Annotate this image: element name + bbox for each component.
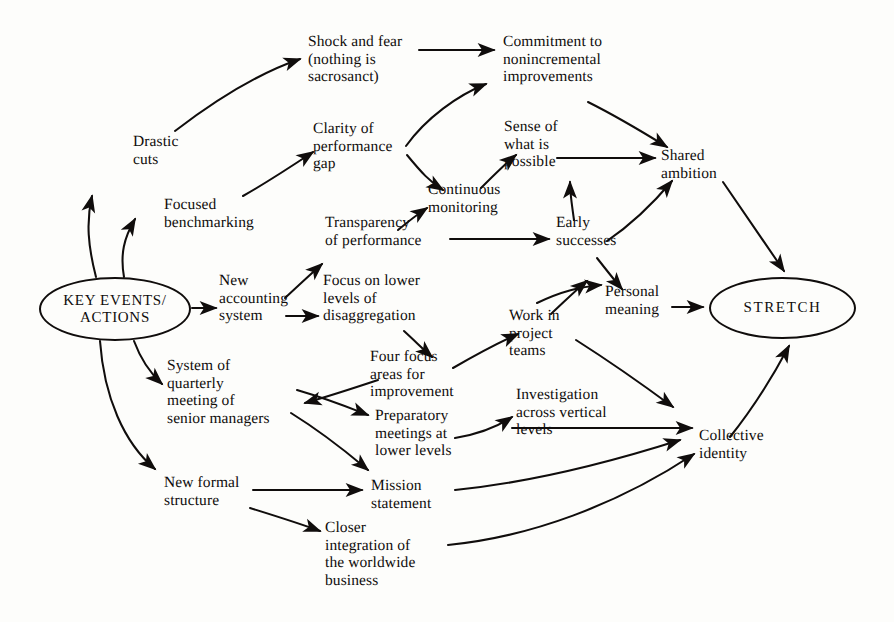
node-new-accounting-system[interactable]: New accounting system xyxy=(219,272,288,325)
node-personal-meaning[interactable]: Personal meaning xyxy=(605,283,659,318)
edge-new-accounting-to-transparency xyxy=(285,264,322,298)
edge-key-events-to-focused-bench xyxy=(122,219,135,277)
node-early-successes[interactable]: Early successes xyxy=(556,214,616,249)
edge-new-formal-to-closer-integ xyxy=(250,508,320,531)
node-investigation-across-levels[interactable]: Investigation across vertical levels xyxy=(516,386,607,439)
node-preparatory-meetings[interactable]: Preparatory meetings at lower levels xyxy=(375,407,452,460)
edge-early-successes-to-shared-ambition xyxy=(607,181,672,241)
node-new-formal-structure[interactable]: New formal structure xyxy=(164,474,239,509)
node-focus-on-lower-levels[interactable]: Focus on lower levels of disaggregation xyxy=(323,272,420,325)
edge-drastic-cuts-to-shock-fear xyxy=(175,59,300,131)
edge-key-events-to-drastic-cuts xyxy=(89,196,96,277)
node-four-focus-areas[interactable]: Four focus areas for improvement xyxy=(370,348,454,401)
node-shared-ambition[interactable]: Shared ambition xyxy=(661,147,717,182)
edge-focused-bench-to-clarity-gap xyxy=(243,152,313,196)
hub-key-events-actions[interactable]: KEY EVENTS/ ACTIONS xyxy=(39,277,191,341)
hub-stretch[interactable]: STRETCH xyxy=(709,277,856,339)
node-sense-of-what-is-possible[interactable]: Sense of what is possible xyxy=(504,118,558,171)
node-mission-statement[interactable]: Mission statement xyxy=(371,477,431,512)
edge-closer-integ-to-collective-id xyxy=(448,454,694,545)
node-drastic-cuts[interactable]: Drastic cuts xyxy=(133,133,178,168)
node-focused-benchmarking[interactable]: Focused benchmarking xyxy=(164,196,254,231)
edge-shared-ambition-to-stretch xyxy=(723,182,784,271)
edge-four-focus-to-system-quarterly xyxy=(305,380,378,403)
edge-work-project-to-personal-meaning xyxy=(537,285,601,303)
node-system-of-quarterly-meeting[interactable]: System of quarterly meeting of senior ma… xyxy=(167,357,270,428)
node-shock-and-fear[interactable]: Shock and fear (nothing is sacrosanct) xyxy=(308,33,402,86)
edge-key-events-to-new-formal xyxy=(100,341,155,469)
node-work-in-project-teams[interactable]: Work in project teams xyxy=(509,307,560,360)
edge-preparatory-to-investigation xyxy=(455,417,512,438)
edge-system-quarterly-to-mission xyxy=(291,413,368,470)
edge-clarity-gap-to-commitment xyxy=(406,84,486,146)
edge-collective-id-to-stretch xyxy=(730,346,789,437)
node-transparency-of-performance[interactable]: Transparency of performance xyxy=(325,214,422,249)
diagram-canvas: KEY EVENTS/ ACTIONS STRETCH Shock and fe… xyxy=(0,0,894,622)
edge-key-events-to-system-quarterly xyxy=(134,341,162,384)
node-continuous-monitoring[interactable]: Continuous monitoring xyxy=(428,181,500,216)
node-collective-identity[interactable]: Collective identity xyxy=(699,427,764,462)
node-commitment-to-nonincremental[interactable]: Commitment to nonincremental improvement… xyxy=(503,33,602,86)
edge-commitment-to-shared-ambition xyxy=(588,102,667,147)
node-clarity-of-performance-gap[interactable]: Clarity of performance gap xyxy=(313,120,392,173)
node-closer-integration[interactable]: Closer integration of the worldwide busi… xyxy=(325,519,415,590)
